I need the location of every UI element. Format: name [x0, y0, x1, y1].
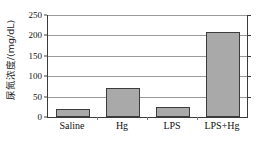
y-tick-label: 50 [33, 92, 42, 102]
y-tick-label: 200 [29, 30, 43, 40]
bar-chart-figure: 尿氮浓度/(mg/dL) 050100150200250 SalineHgLPS… [0, 0, 271, 145]
y-tick-label: 0 [38, 112, 43, 122]
bar-slot [48, 15, 98, 117]
right-tick-mark [247, 15, 251, 16]
x-tick-mark [197, 117, 198, 120]
x-tick-label: Hg [116, 120, 128, 131]
bars-group [48, 15, 248, 117]
x-tick-mark [147, 117, 148, 120]
y-tick-label: 100 [29, 71, 43, 81]
y-tick-label: 150 [29, 51, 43, 61]
x-tick-label: LPS [163, 120, 180, 131]
right-tick-mark [247, 35, 251, 36]
bar[interactable] [106, 88, 140, 117]
bar[interactable] [206, 32, 240, 117]
bar-slot [98, 15, 148, 117]
y-axis-title-text: 尿氮浓度/(mg/dL) [3, 20, 17, 100]
right-tick-mark [247, 56, 251, 57]
y-axis-tick-labels: 050100150200250 [16, 11, 44, 119]
x-tick-label: Saline [60, 120, 85, 131]
bar[interactable] [156, 107, 190, 117]
bar[interactable] [56, 109, 90, 117]
right-tick-mark [247, 76, 251, 77]
y-tick-label: 250 [29, 10, 43, 20]
x-axis-tick-labels: SalineHgLPSLPS+Hg [47, 120, 247, 140]
x-tick-mark [97, 117, 98, 120]
right-tick-mark [247, 97, 251, 98]
x-tick-label: LPS+Hg [204, 120, 239, 131]
right-axis-spine [247, 15, 248, 118]
bar-slot [198, 15, 248, 117]
plot-area [47, 15, 248, 118]
bar-slot [148, 15, 198, 117]
